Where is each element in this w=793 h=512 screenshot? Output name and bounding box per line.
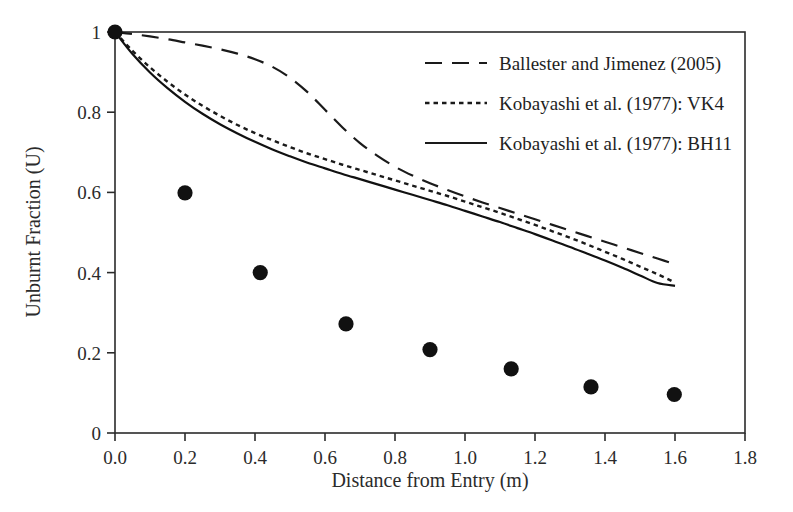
- x-tick-label: 1.6: [663, 447, 687, 468]
- x-tick-label: 0.4: [243, 447, 267, 468]
- y-tick-label: 0.8: [77, 102, 101, 123]
- x-tick-label: 1.8: [733, 447, 757, 468]
- y-axis-title: Unburnt Fraction (U): [22, 146, 45, 317]
- scatter-marker: [177, 185, 192, 200]
- x-tick-label: 1.2: [523, 447, 547, 468]
- x-tick-label: 0.8: [383, 447, 407, 468]
- scatter-marker: [583, 379, 598, 394]
- legend-label-1: Ballester and Jimenez (2005): [499, 53, 721, 75]
- y-tick-label: 1: [92, 22, 102, 43]
- y-tick-label: 0: [92, 423, 102, 444]
- chart-background: [0, 0, 793, 512]
- chart-figure: 0.00.20.40.60.81.01.21.41.61.8 00.20.40.…: [0, 0, 793, 512]
- x-tick-label: 1.4: [593, 447, 617, 468]
- legend-label-3: Kobayashi et al. (1977): BH11: [499, 133, 732, 155]
- y-tick-label: 0.6: [77, 182, 101, 203]
- scatter-marker: [107, 24, 122, 39]
- y-tick-label: 0.2: [77, 343, 101, 364]
- scatter-marker: [338, 316, 353, 331]
- scatter-marker: [253, 265, 268, 280]
- x-axis-title: Distance from Entry (m): [331, 469, 528, 492]
- scatter-marker: [504, 361, 519, 376]
- x-tick-label: 0.2: [173, 447, 197, 468]
- scatter-marker: [422, 342, 437, 357]
- unburnt-fraction-chart: 0.00.20.40.60.81.01.21.41.61.8 00.20.40.…: [0, 0, 793, 512]
- y-tick-label: 0.4: [77, 263, 101, 284]
- legend-label-2: Kobayashi et al. (1977): VK4: [499, 93, 724, 115]
- x-tick-label: 0.6: [313, 447, 337, 468]
- x-tick-label: 0.0: [103, 447, 127, 468]
- scatter-marker: [667, 387, 682, 402]
- x-tick-label: 1.0: [453, 447, 477, 468]
